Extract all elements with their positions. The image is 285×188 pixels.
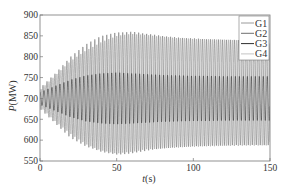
x-tick-label: 0 (38, 163, 43, 173)
legend-label-g4: G4 (255, 48, 267, 59)
y-tick-label: 900 (24, 10, 39, 20)
y-tick-label: 750 (24, 73, 39, 83)
series-layer (40, 32, 270, 155)
y-tick-label: 850 (24, 31, 39, 41)
x-tick-label: 150 (263, 163, 278, 173)
y-tick-label: 650 (24, 115, 39, 125)
x-tick-label: 100 (186, 163, 201, 173)
y-tick-label: 550 (24, 156, 39, 166)
y-tick-label: 700 (24, 94, 39, 104)
x-tick-label: 50 (112, 163, 122, 173)
y-tick-label: 800 (24, 52, 39, 62)
x-axis: 050100150 (38, 158, 278, 173)
line-chart: 550600650700750800850900 050100150 P(MW)… (0, 0, 285, 188)
y-tick-label: 600 (24, 135, 39, 145)
x-axis-label: t(s) (142, 173, 155, 185)
y-axis-label: P(MW) (7, 80, 19, 112)
legend: G1G2G3G4 (239, 16, 269, 60)
